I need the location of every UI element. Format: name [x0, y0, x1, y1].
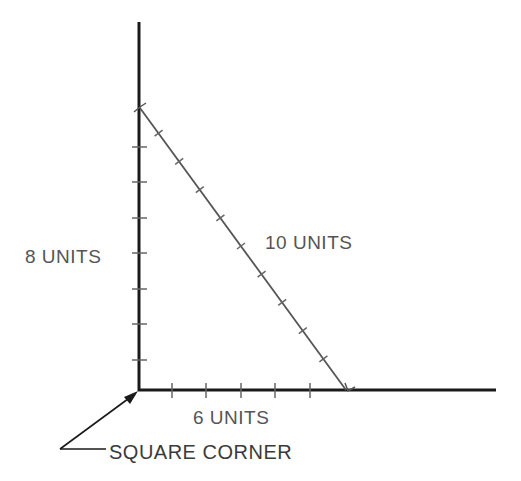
vertical-side-label: 8 UNITS: [25, 246, 101, 267]
square-corner-label: SQUARE CORNER: [109, 441, 292, 463]
arrowhead-icon: [124, 391, 138, 404]
square-corner-diagram: 8 UNITS 10 UNITS 6 UNITS SQUARE CORNER: [0, 0, 521, 481]
horizontal-side-label: 6 UNITS: [193, 407, 269, 428]
hypotenuse-label: 10 UNITS: [265, 232, 352, 253]
